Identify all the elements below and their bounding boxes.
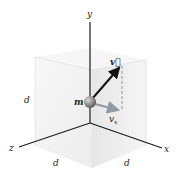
diagram-canvas: y x z m v⃗ vx d d d <box>0 0 179 175</box>
edge-bottom-left-label: d <box>53 158 59 168</box>
mass-label: m <box>74 97 84 107</box>
cube-left-face <box>35 57 92 168</box>
y-axis-label: y <box>86 9 93 19</box>
mass-sphere <box>84 96 96 108</box>
velocity-label: v⃗ <box>110 57 121 67</box>
edge-bottom-right-label: d <box>124 158 130 168</box>
cube-right-face <box>92 60 146 168</box>
edge-left-label: d <box>24 95 30 105</box>
x-axis-label: x <box>164 144 169 154</box>
z-axis-label: z <box>8 143 14 153</box>
